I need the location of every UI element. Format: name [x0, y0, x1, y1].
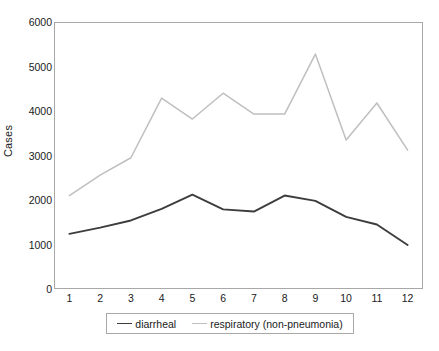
- x-tick-label: 9: [300, 292, 330, 304]
- y-tick-label: 3000: [6, 151, 52, 161]
- x-axis-tick-labels: 123456789101112: [54, 292, 423, 308]
- figure-container: Cases 0100020003000400050006000 12345678…: [0, 0, 439, 351]
- y-tick-label: 0: [6, 284, 52, 294]
- x-tick-label: 5: [177, 292, 207, 304]
- series-line-respiratory: [69, 54, 407, 196]
- x-tick-label: 11: [362, 292, 392, 304]
- y-tick-label: 2000: [6, 195, 52, 205]
- x-tick-label: 3: [116, 292, 146, 304]
- x-tick-label: 8: [270, 292, 300, 304]
- legend-swatch: [192, 323, 207, 324]
- legend-entry: diarrheal: [117, 318, 176, 330]
- legend-entry: respiratory (non-pneumonia): [192, 318, 342, 330]
- x-tick-label: 4: [147, 292, 177, 304]
- series-line-diarrheal: [69, 195, 407, 245]
- legend-swatch: [117, 323, 132, 324]
- x-tick-label: 7: [239, 292, 269, 304]
- x-tick-label: 12: [393, 292, 423, 304]
- x-tick-label: 1: [54, 292, 84, 304]
- x-tick-label: 2: [85, 292, 115, 304]
- x-tick-label: 10: [331, 292, 361, 304]
- legend-label: diarrheal: [135, 318, 176, 330]
- y-tick-label: 4000: [6, 106, 52, 116]
- y-axis-tick-labels: 0100020003000400050006000: [0, 0, 52, 351]
- y-tick-label: 6000: [6, 17, 52, 27]
- legend-label: respiratory (non-pneumonia): [210, 318, 342, 330]
- chart-legend: diarrhealrespiratory (non-pneumonia): [106, 313, 354, 334]
- y-tick-label: 5000: [6, 62, 52, 72]
- y-tick-label: 1000: [6, 240, 52, 250]
- chart-lines: [54, 22, 423, 289]
- x-tick-label: 6: [208, 292, 238, 304]
